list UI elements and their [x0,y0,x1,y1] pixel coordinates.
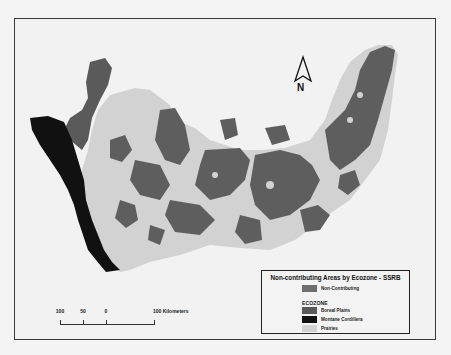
scale-bar: 100 50 0 100 Kilometers [55,308,255,333]
legend-item-montane-cordillera: Montane Cordillera [302,316,363,323]
scale-units-label: 100 Kilometers [153,308,189,314]
legend-ecozone-heading: ECOZONE [302,300,328,306]
scale-tick-label: 50 [80,308,86,314]
legend-item-boreal-plains: Boreal Plains [302,307,350,314]
scale-tick-label: 0 [105,308,108,314]
legend-swatch [302,316,317,323]
legend: Non-contributing Areas by Ecozone - SSRB… [261,270,410,334]
legend-item-non-contributing: Non-Contributing [302,285,359,292]
legend-swatch [302,307,317,314]
legend-label: Prairies [321,326,338,331]
legend-label: Non-Contributing [321,286,359,291]
legend-swatch [302,325,317,332]
scale-tick [106,320,107,324]
north-arrow-icon [291,55,315,100]
legend-item-prairies: Prairies [302,325,338,332]
legend-label: Montane Cordillera [321,317,363,322]
legend-swatch [302,285,317,292]
scale-tick-label: 100 [56,308,64,314]
legend-label: Boreal Plains [321,308,350,313]
legend-title: Non-contributing Areas by Ecozone - SSRB [262,274,409,281]
scale-tick [83,320,84,324]
scale-line [60,320,155,325]
north-arrow-label: N [297,82,304,93]
